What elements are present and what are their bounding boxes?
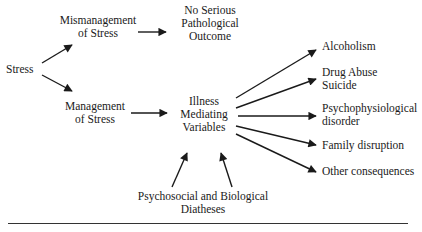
arrow-mediating-to-alcoholism	[236, 50, 316, 98]
node-no-serious-outcome: No Serious Pathological Outcome	[166, 4, 254, 43]
node-family-disruption: Family disruption	[322, 139, 404, 152]
node-mismanagement-line-2: of Stress	[55, 27, 141, 40]
arrow-mediating-to-family	[236, 126, 316, 145]
node-mismanagement: Mismanagement of Stress	[55, 14, 141, 40]
node-drug-abuse-line-2: Suicide	[322, 79, 377, 92]
node-no-outcome-line-3: Outcome	[166, 30, 254, 43]
arrow-mediating-to-other	[236, 134, 316, 172]
node-alcoholism: Alcoholism	[322, 40, 376, 53]
node-stress-label: Stress	[6, 63, 33, 75]
node-psychophysiological-line-1: Psychophysiological	[322, 102, 417, 115]
node-diatheses: Psychosocial and Biological Diatheses	[128, 190, 278, 216]
node-diatheses-line-2: Diatheses	[128, 203, 278, 216]
arrow-stress-to-management	[42, 75, 72, 91]
node-other-consequences: Other consequences	[322, 165, 414, 178]
node-drug-abuse-suicide: Drug Abuse Suicide	[322, 66, 377, 92]
node-no-outcome-line-2: Pathological	[166, 17, 254, 30]
node-stress: Stress	[6, 63, 33, 76]
node-illness-mediating-variables: Illness Mediating Variables	[174, 95, 234, 134]
arrow-diatheses-to-mediating-left	[172, 153, 187, 187]
node-mediating-line-3: Variables	[174, 121, 234, 134]
node-other-line-1: Other consequences	[322, 165, 414, 178]
node-family-line-1: Family disruption	[322, 139, 404, 152]
node-alcoholism-line-1: Alcoholism	[322, 40, 376, 53]
node-mediating-line-1: Illness	[174, 95, 234, 108]
node-management-line-1: Management	[58, 100, 132, 113]
node-mismanagement-line-1: Mismanagement	[55, 14, 141, 27]
node-management: Management of Stress	[58, 100, 132, 126]
arrow-stress-to-mismanagement	[42, 45, 72, 63]
node-drug-abuse-line-1: Drug Abuse	[322, 66, 377, 79]
node-management-line-2: of Stress	[58, 113, 132, 126]
arrow-mediating-to-drug-abuse	[236, 79, 316, 108]
node-psychophysiological-line-2: disorder	[322, 115, 417, 128]
node-mediating-line-2: Mediating	[174, 108, 234, 121]
node-diatheses-line-1: Psychosocial and Biological	[128, 190, 278, 203]
node-psychophysiological: Psychophysiological disorder	[322, 102, 417, 128]
bottom-divider	[8, 223, 408, 224]
arrow-diatheses-to-mediating-right	[221, 153, 232, 187]
node-no-outcome-line-1: No Serious	[166, 4, 254, 17]
